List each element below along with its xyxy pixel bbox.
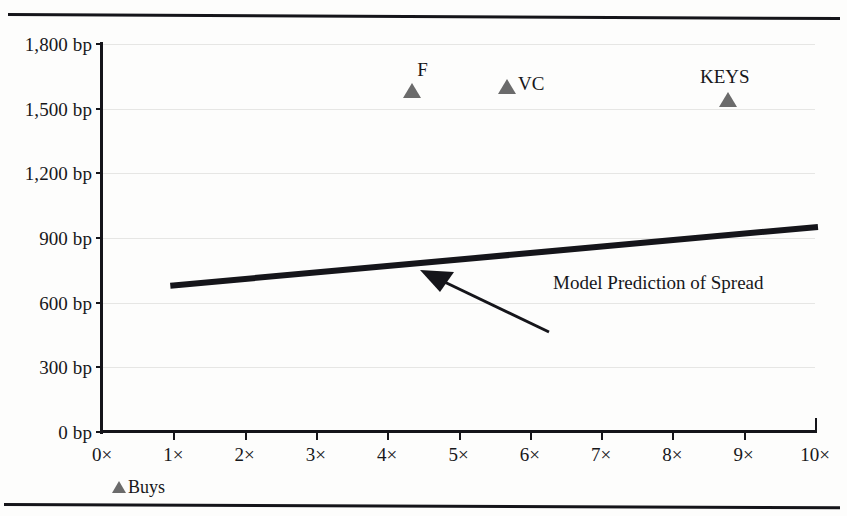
y-axis-tick-label: 300 bp xyxy=(0,358,92,377)
x-axis-tick-label: 0× xyxy=(72,445,132,464)
x-axis-tick xyxy=(744,433,746,440)
plot-area: FVCKEYS xyxy=(102,44,815,432)
data-point-marker xyxy=(719,92,737,107)
x-axis-tick xyxy=(387,433,389,440)
figure-chart: FVCKEYS 0 bp300 bp600 bp900 bp1,200 bp1,… xyxy=(0,0,847,516)
x-axis-tick xyxy=(530,433,532,440)
legend: Buys xyxy=(112,478,165,496)
x-axis-tick-label: 6× xyxy=(500,445,560,464)
x-axis-tick xyxy=(459,433,461,440)
x-axis-tick-label: 8× xyxy=(642,445,702,464)
data-point-label: KEYS xyxy=(700,67,750,86)
x-axis-tick-label: 3× xyxy=(286,445,346,464)
x-axis-tick xyxy=(316,433,318,440)
bottom-rule xyxy=(4,503,840,509)
x-axis-tick xyxy=(601,433,603,440)
x-axis-tick-label: 10× xyxy=(785,445,845,464)
x-axis-tick-label: 9× xyxy=(714,445,774,464)
data-point-marker xyxy=(498,79,516,94)
y-axis-tick-label: 0 bp xyxy=(0,423,92,442)
data-point-label: F xyxy=(417,60,428,79)
y-axis-tick-label: 1,500 bp xyxy=(0,100,92,119)
x-axis-tick-label: 4× xyxy=(357,445,417,464)
y-axis-tick-label: 900 bp xyxy=(0,229,92,248)
x-axis-tick-label: 2× xyxy=(215,445,275,464)
y-axis xyxy=(100,42,103,434)
legend-label: Buys xyxy=(128,478,165,496)
x-axis-tick-label: 7× xyxy=(571,445,631,464)
x-axis-tick-label: 1× xyxy=(143,445,203,464)
y-axis-tick-label: 1,200 bp xyxy=(0,164,92,183)
top-rule xyxy=(8,13,840,20)
data-point-marker xyxy=(403,83,421,98)
annotation-arrow xyxy=(102,44,815,432)
data-point-label: VC xyxy=(518,74,544,93)
annotation-label: Model Prediction of Spread xyxy=(553,272,764,293)
x-axis-tick xyxy=(173,433,175,440)
x-axis-tick-label: 5× xyxy=(429,445,489,464)
y-axis-tick-label: 600 bp xyxy=(0,294,92,313)
legend-triangle-icon xyxy=(112,481,126,493)
x-axis-tick xyxy=(672,433,674,440)
y-axis-tick-label: 1,800 bp xyxy=(0,35,92,54)
x-axis-end-cap xyxy=(815,418,817,433)
x-axis-tick xyxy=(245,433,247,440)
